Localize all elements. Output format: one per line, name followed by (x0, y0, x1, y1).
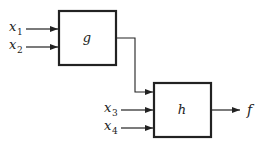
svg-text:1: 1 (17, 27, 23, 37)
output-label-f: f (246, 102, 255, 118)
arrow-g-to-h (116, 38, 153, 92)
input-label-x4: x 4 (104, 118, 118, 136)
block-diagram: g h x 1 x 2 x 3 x 4 f (0, 0, 263, 151)
svg-text:2: 2 (17, 45, 23, 55)
svg-text:x: x (9, 19, 17, 34)
svg-text:3: 3 (112, 108, 118, 118)
svg-text:4: 4 (112, 126, 118, 136)
input-label-x3: x 3 (104, 100, 118, 118)
svg-text:x: x (104, 100, 112, 115)
block-g-label: g (83, 30, 91, 45)
svg-text:x: x (104, 118, 112, 133)
input-label-x1: x 1 (9, 19, 23, 37)
input-label-x2: x 2 (9, 37, 23, 55)
block-h-label: h (178, 102, 186, 117)
svg-text:x: x (9, 37, 17, 52)
